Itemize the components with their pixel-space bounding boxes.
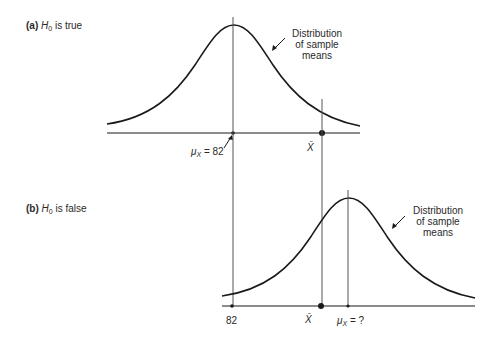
callout-line-1: Distribution xyxy=(282,28,352,39)
panel-b-sample-mean-point xyxy=(318,303,324,309)
panel-b-reference-label: 82 xyxy=(226,315,237,326)
callout-line-3: means xyxy=(282,50,352,61)
arrowhead-icon xyxy=(272,45,277,51)
panel-a-condition: is true xyxy=(55,20,82,31)
callout-line-3: means xyxy=(403,227,473,238)
mu-value: = ? xyxy=(350,315,364,326)
panel-b-label: (b) H0 is false xyxy=(26,203,87,215)
panel-b-mean-label: μX = ? xyxy=(337,315,364,327)
hypothesis-subscript: 0 xyxy=(49,208,53,215)
panel-a-sample-mean-label: X̄ xyxy=(307,142,314,153)
panel-a-callout: Distribution of sample means xyxy=(282,28,352,61)
mu-value: = 82 xyxy=(204,146,224,157)
callout-line-2: of sample xyxy=(403,216,473,227)
panel-b-82-point xyxy=(230,304,234,308)
panel-b-callout: Distribution of sample means xyxy=(403,205,473,238)
panel-b-sample-mean-label: X̄ xyxy=(305,314,312,325)
panel-b-tag: (b) xyxy=(26,203,39,214)
panel-b-condition: is false xyxy=(55,203,86,214)
mu-subscript: X xyxy=(196,151,201,158)
callout-line-2: of sample xyxy=(282,39,352,50)
arrowhead-icon xyxy=(228,135,233,140)
callout-line-1: Distribution xyxy=(403,205,473,216)
mu-subscript: X xyxy=(342,320,347,327)
hypothesis-subscript: 0 xyxy=(48,25,52,32)
diagram-canvas xyxy=(0,0,501,343)
panel-a-tag: (a) xyxy=(26,20,38,31)
panel-b-mean-point xyxy=(346,304,349,307)
panel-a-label: (a) H0 is true xyxy=(26,20,82,32)
panel-a-mean-label: μX = 82 xyxy=(191,146,224,158)
hypothesis-symbol: H xyxy=(42,203,49,214)
arrowhead-icon xyxy=(392,223,397,229)
